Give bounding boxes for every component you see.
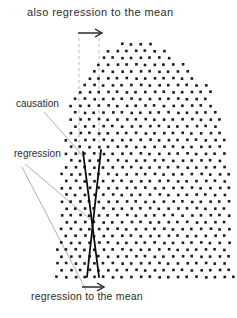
label-also-regression-to-the-mean: also regression to the mean: [27, 6, 174, 18]
crossing-lines: [83, 150, 101, 277]
label-regression: regression: [14, 148, 61, 159]
dot-field: [55, 42, 234, 278]
label-causation: causation: [16, 98, 59, 109]
dot-dome-canvas: [0, 0, 237, 318]
label-regression-to-the-mean: regression to the mean: [31, 291, 143, 303]
regression-leader-bottom: [22, 167, 86, 290]
regression-to-the-mean-figure: also regression to the mean causation re…: [0, 0, 237, 318]
shift-arrow-top: [78, 29, 102, 37]
causation-line: [83, 152, 99, 277]
